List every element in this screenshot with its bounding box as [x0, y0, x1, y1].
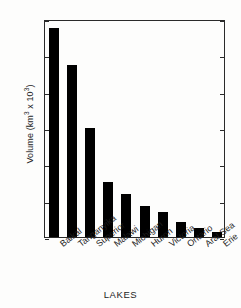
chart-figure: Volume (km3 x 103) 04812162024 BaikalTan…	[0, 0, 241, 308]
bar	[49, 28, 59, 237]
bar	[85, 128, 95, 237]
y-axis-title-mid: x 10	[25, 91, 35, 111]
x-axis-tick-label: Malawi	[112, 241, 118, 249]
y-axis-tick	[45, 239, 49, 240]
plot-area: 04812162024	[44, 20, 225, 238]
x-axis-tick-label: Baikal	[58, 241, 64, 249]
y-axis-tick-right	[220, 203, 224, 204]
y-axis-tick-right	[220, 130, 224, 131]
bar	[67, 65, 77, 237]
y-axis-tick-right	[220, 57, 224, 58]
y-axis-title-base: Volume (km	[25, 115, 35, 164]
y-axis-title-exponent-units: 3	[23, 111, 30, 115]
x-axis-tick-label: Superior	[94, 241, 100, 249]
x-axis-tick-label: Huron	[149, 241, 155, 249]
y-axis-tick-right	[220, 21, 224, 22]
x-axis-tick-label: Erie	[221, 241, 227, 249]
x-axis-tick-label: Aral Sea	[203, 241, 209, 249]
x-axis-title: LAKES	[0, 289, 241, 300]
y-axis-tick-right	[220, 166, 224, 167]
y-axis-title-exponent-scale: 3	[23, 88, 30, 92]
x-axis-tick-label: Michigan	[130, 241, 136, 249]
x-axis-tick-label: Ontario	[185, 241, 191, 249]
y-axis-title: Volume (km3 x 103)	[23, 49, 35, 199]
y-axis-tick-right	[220, 94, 224, 95]
x-axis-tick-label: Tanganyika	[76, 241, 82, 249]
y-axis-title-end: )	[25, 84, 35, 87]
y-axis-tick	[45, 21, 49, 22]
x-axis-tick-label: Victoria	[167, 241, 173, 249]
